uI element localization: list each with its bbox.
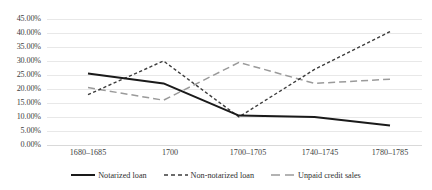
chart-legend: Notarized loan Non-notarized loan Unpaid…	[0, 167, 432, 183]
legend-label: Non-notarized loan	[191, 171, 254, 180]
y-axis-tick-label: 15.00%	[17, 99, 41, 107]
x-axis-tick-label: 1780–1785	[372, 148, 408, 157]
y-axis-tick-label: 45.00%	[17, 15, 41, 23]
series-layer	[47, 19, 422, 145]
x-axis-tick-label: 1700–1705	[230, 148, 266, 157]
x-axis-baseline	[47, 145, 422, 146]
legend-item-notarized-loan: Notarized loan	[71, 171, 146, 180]
legend-label: Unpaid credit sales	[298, 171, 361, 180]
y-axis-tick-label: 10.00%	[17, 113, 41, 121]
legend-label: Notarized loan	[98, 171, 146, 180]
y-axis-tick-label: 30.00%	[17, 57, 41, 65]
legend-line-short-dash-icon	[164, 172, 188, 178]
y-axis-tick-label: 20.00%	[17, 85, 41, 93]
line-chart: 45.00% 40.00% 35.00% 30.00% 25.00% 20.00…	[0, 0, 432, 190]
x-axis-tick-label: 1700	[162, 148, 178, 157]
y-axis: 45.00% 40.00% 35.00% 30.00% 25.00% 20.00…	[0, 0, 44, 190]
y-axis-tick-label: 40.00%	[17, 29, 41, 37]
series-line-non-notarized-loan	[88, 32, 390, 117]
x-axis: 1680–1685 1700 1700–1705 1740–1745 1780–…	[47, 148, 422, 162]
x-axis-tick-label: 1680–1685	[70, 148, 106, 157]
legend-line-long-dash-icon	[271, 172, 295, 178]
legend-item-unpaid-credit-sales: Unpaid credit sales	[271, 171, 361, 180]
y-axis-tick-label: 0.00%	[21, 141, 41, 149]
x-axis-tick-label: 1740–1745	[302, 148, 338, 157]
series-line-unpaid-credit-sales	[88, 62, 390, 100]
y-axis-tick-label: 35.00%	[17, 43, 41, 51]
legend-line-solid-icon	[71, 172, 95, 178]
y-axis-tick-label: 25.00%	[17, 71, 41, 79]
legend-item-non-notarized-loan: Non-notarized loan	[164, 171, 254, 180]
y-axis-tick-label: 5.00%	[21, 127, 41, 135]
plot-area	[47, 19, 422, 145]
